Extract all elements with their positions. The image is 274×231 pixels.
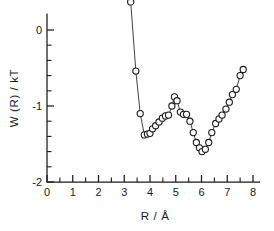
x-axis-tick-labels: 012345678	[44, 186, 256, 198]
y-tick-label: 0	[36, 24, 42, 36]
data-point	[219, 112, 225, 118]
data-point	[202, 146, 208, 152]
x-tick-label: 3	[121, 186, 127, 198]
x-axis-major-ticks	[47, 175, 253, 182]
data-point	[226, 99, 232, 105]
data-point	[187, 118, 193, 124]
x-tick-label: 8	[250, 186, 256, 198]
data-point	[165, 112, 171, 118]
data-point	[240, 66, 246, 72]
data-point	[137, 111, 143, 117]
x-tick-label: 2	[95, 186, 101, 198]
data-series-line	[131, 2, 244, 152]
x-tick-label: 6	[198, 186, 204, 198]
y-axis-title: W (R) / kT	[8, 69, 20, 127]
y-tick-label: -1	[32, 100, 42, 112]
x-tick-label: 4	[147, 186, 153, 198]
data-point	[223, 106, 229, 112]
x-tick-label: 1	[70, 186, 76, 198]
axis-frame	[47, 14, 259, 182]
data-point	[174, 98, 180, 104]
x-tick-label: 7	[224, 186, 230, 198]
data-point	[169, 103, 175, 109]
y-tick-label: -2	[32, 176, 42, 188]
data-point	[206, 139, 212, 145]
data-point	[190, 130, 196, 136]
data-point	[133, 68, 139, 74]
y-axis-tick-labels: 0-1-2	[32, 24, 42, 188]
x-tick-label: 0	[44, 186, 50, 198]
x-axis-title: R / Å	[141, 210, 170, 222]
data-point	[237, 73, 243, 79]
data-series-markers	[128, 0, 247, 155]
y-axis-major-ticks	[47, 30, 54, 182]
data-point	[183, 111, 189, 117]
potential-of-mean-force-plot: 0-1-2 012345678 R / Å W (R) / kT	[0, 0, 274, 231]
figure-container: 0-1-2 012345678 R / Å W (R) / kT	[0, 0, 274, 231]
data-point	[233, 86, 239, 92]
x-tick-label: 5	[173, 186, 179, 198]
data-point	[128, 0, 134, 5]
data-point	[209, 130, 215, 136]
